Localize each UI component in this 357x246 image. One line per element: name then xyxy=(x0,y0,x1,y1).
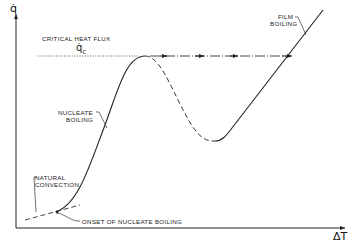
film-boiling-line2: BOILING xyxy=(264,20,297,27)
nucleate-boiling-line2: BOILING xyxy=(58,116,93,123)
film-boiling-label: FILM BOILING xyxy=(278,13,297,27)
x-axis-label: ΔT xyxy=(333,230,347,243)
critical-heat-flux-label: CRITICAL HEAT FLUX xyxy=(42,35,111,42)
natural-convection-line2: CONVECTION xyxy=(35,181,79,188)
nucleate-boiling-line1: NUCLEATE xyxy=(58,109,93,116)
natural-convection-line1: NATURAL xyxy=(35,174,79,181)
natural-convection-line xyxy=(25,205,80,220)
qc-subscript: c xyxy=(82,48,86,56)
onset-nucleate-boiling-label: ONSET OF NUCLEATE BOILING xyxy=(82,218,182,225)
onset-leader xyxy=(57,213,80,221)
qc-symbol: q̇c xyxy=(76,42,86,56)
film-boiling-curve xyxy=(215,10,323,141)
transition-boiling-curve xyxy=(145,56,215,141)
y-axis-label: q̇ xyxy=(10,2,17,15)
nucleate-boiling-curve xyxy=(56,56,145,212)
natural-convection-label: NATURAL CONVECTION xyxy=(35,174,79,188)
film-boiling-line1: FILM xyxy=(278,13,297,20)
nucleate-boiling-label: NUCLEATE BOILING xyxy=(58,109,93,123)
